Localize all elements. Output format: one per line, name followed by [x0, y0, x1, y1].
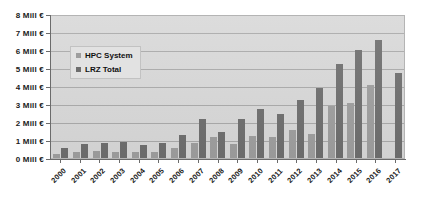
x-axis-tick: 2007	[188, 160, 208, 198]
x-axis-tick-mark	[119, 160, 120, 163]
bar-group	[149, 16, 169, 158]
y-axis-tick-label: 8 Mill €	[16, 11, 44, 20]
x-axis-tick: 2009	[227, 160, 247, 198]
x-axis-tick: 2010	[247, 160, 267, 198]
x-axis-tick-mark	[277, 160, 278, 163]
bar-group	[51, 16, 71, 158]
bar-2000-lrz-total	[61, 148, 68, 158]
bar-group	[384, 16, 404, 158]
y-axis-labels: 0 Mill €1 Mill €2 Mill €3 Mill €4 Mill €…	[0, 0, 48, 198]
bar-group	[365, 16, 385, 158]
legend-item-hpc-system: HPC System	[76, 51, 133, 60]
x-axis-tick: 2014	[326, 160, 346, 198]
bar-chart: 0 Mill €1 Mill €2 Mill €3 Mill €4 Mill €…	[0, 0, 423, 198]
bar-2016-lrz-total	[375, 40, 382, 158]
x-axis-tick-label: 2002	[89, 166, 107, 184]
x-axis-tick-mark	[80, 160, 81, 163]
x-axis-tick-label: 2001	[69, 166, 87, 184]
bar-2013-lrz-total	[316, 88, 323, 158]
x-axis-tick: 2005	[149, 160, 169, 198]
bar-group	[71, 16, 91, 158]
bar-group	[110, 16, 130, 158]
bar-2008-lrz-total	[218, 132, 225, 158]
bar-2001-lrz-total	[81, 144, 88, 158]
bar-2010-lrz-total	[257, 109, 264, 159]
y-axis-tick-label: 7 Mill €	[16, 29, 44, 38]
bar-group	[286, 16, 306, 158]
y-axis-tick-label: 1 Mill €	[16, 137, 44, 146]
x-axis-tick-mark	[336, 160, 337, 163]
bar-2007-hpc-system	[191, 143, 198, 158]
x-axis-tick-mark	[198, 160, 199, 163]
x-axis-tick-mark	[395, 160, 396, 163]
x-axis-tick-label: 2011	[266, 167, 284, 185]
x-axis-tick-label: 2017	[384, 166, 402, 184]
x-axis-tick-label: 2014	[325, 166, 343, 184]
bar-2005-lrz-total	[159, 143, 166, 158]
bar-2009-hpc-system	[230, 144, 237, 158]
x-axis-tick: 2008	[208, 160, 228, 198]
x-axis-tick-mark	[139, 160, 140, 163]
bar-2003-lrz-total	[120, 142, 127, 158]
bar-2015-hpc-system	[347, 103, 354, 158]
y-axis-tick-label: 5 Mill €	[16, 65, 44, 74]
bar-2005-hpc-system	[151, 152, 158, 158]
x-axis-tick-mark	[158, 160, 159, 163]
chart-legend: HPC System LRZ Total	[70, 46, 141, 79]
x-axis-tick-label: 2008	[207, 166, 225, 184]
bar-2015-lrz-total	[355, 50, 362, 158]
bar-2012-lrz-total	[297, 100, 304, 158]
y-axis-tick-label: 6 Mill €	[16, 47, 44, 56]
x-axis-tick-mark	[356, 160, 357, 163]
bar-group	[90, 16, 110, 158]
legend-swatch-icon	[76, 67, 81, 72]
bar-2004-hpc-system	[132, 152, 139, 158]
bar-2007-lrz-total	[199, 119, 206, 158]
x-axis-tick-mark	[375, 160, 376, 163]
x-axis-tick: 2004	[129, 160, 149, 198]
x-axis-tick-mark	[257, 160, 258, 163]
bar-group	[169, 16, 189, 158]
bar-group	[267, 16, 287, 158]
y-axis-tick-label: 0 Mill €	[16, 155, 44, 164]
bar-2017-lrz-total	[395, 73, 402, 158]
bar-2002-lrz-total	[101, 143, 108, 158]
x-axis-tick-mark	[316, 160, 317, 163]
bar-groups	[51, 16, 404, 158]
bar-group	[188, 16, 208, 158]
x-axis-tick-mark	[218, 160, 219, 163]
legend-label: LRZ Total	[85, 65, 121, 74]
x-axis-tick-mark	[296, 160, 297, 163]
bar-2011-lrz-total	[277, 114, 284, 158]
x-axis-tick: 2012	[287, 160, 307, 198]
bar-2006-hpc-system	[171, 148, 178, 158]
x-axis-tick: 2015	[346, 160, 366, 198]
x-axis-tick: 2000	[50, 160, 70, 198]
x-axis-tick-label: 2012	[286, 166, 304, 184]
x-axis-tick-mark	[99, 160, 100, 163]
legend-swatch-icon	[76, 53, 81, 58]
bar-group	[306, 16, 326, 158]
y-axis-tick-label: 4 Mill €	[16, 83, 44, 92]
x-axis-tick: 2011	[267, 160, 287, 198]
bar-2004-lrz-total	[140, 145, 147, 159]
bar-2001-hpc-system	[73, 152, 80, 158]
x-axis-tick-mark	[178, 160, 179, 163]
bar-2000-hpc-system	[53, 154, 60, 159]
x-axis-labels: 2000200120022003200420052006200720082009…	[50, 160, 405, 198]
bar-group	[227, 16, 247, 158]
legend-item-lrz-total: LRZ Total	[76, 65, 133, 74]
x-axis-tick: 2016	[366, 160, 386, 198]
bar-2012-hpc-system	[289, 130, 296, 158]
x-axis-tick-mark	[60, 160, 61, 163]
x-axis-tick-mark	[237, 160, 238, 163]
bar-2016-hpc-system	[367, 85, 374, 158]
x-axis-tick: 2017	[385, 160, 405, 198]
plot-area	[50, 15, 405, 159]
bar-group	[345, 16, 365, 158]
x-axis-tick-label: 2013	[306, 166, 324, 184]
bar-2013-hpc-system	[308, 134, 315, 158]
bar-2003-hpc-system	[112, 152, 119, 158]
x-axis-tick-label: 2010	[246, 166, 264, 184]
bar-2008-hpc-system	[210, 137, 217, 158]
